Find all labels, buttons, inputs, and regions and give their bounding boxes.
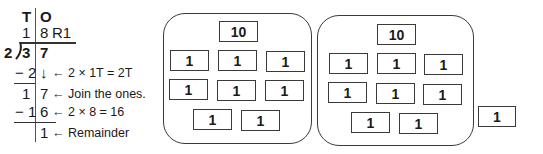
header-ones: O — [40, 9, 52, 24]
one-tile: 1 — [399, 113, 438, 134]
ten-tile: 10 — [377, 24, 416, 45]
one-tile: 1 — [265, 80, 304, 101]
one-tile: 1 — [266, 51, 305, 72]
step3-underline — [14, 122, 56, 123]
quotient-ones: 8 — [40, 25, 48, 40]
dividend-ones: 7 — [40, 45, 48, 60]
quotient-tens: 1 — [22, 25, 30, 40]
step3-tens: − 1 — [15, 104, 36, 119]
one-tile: 1 — [376, 83, 415, 104]
one-tile: 1 — [423, 84, 462, 105]
one-tile: 1 — [169, 79, 208, 100]
remainder-value: 1 — [40, 125, 48, 140]
step2-tens: 1 — [22, 86, 30, 101]
leftover-one-tile: 1 — [478, 106, 516, 127]
step1-ones-arrow: ↓ — [40, 65, 48, 80]
step2-note: ← Join the ones. — [52, 87, 146, 101]
step3-ones: 6 — [40, 104, 48, 119]
one-tile: 1 — [193, 109, 232, 130]
header-tens: T — [22, 9, 31, 24]
one-tile: 1 — [170, 50, 209, 71]
one-tile: 1 — [351, 112, 390, 133]
step1-tens: − 2 — [15, 65, 36, 80]
divisor: 2 — [4, 45, 12, 60]
remainder-note: ← Remainder — [52, 126, 129, 140]
one-tile: 1 — [218, 50, 257, 71]
step3-note: ← 2 × 8 = 16 — [52, 105, 124, 119]
step1-underline — [14, 83, 35, 84]
one-tile: 1 — [217, 80, 256, 101]
one-tile: 1 — [424, 54, 463, 75]
one-tile: 1 — [377, 53, 416, 74]
quotient-remainder: R1 — [52, 25, 71, 40]
one-tile: 1 — [241, 110, 280, 131]
one-tile: 1 — [328, 82, 367, 103]
dividend-tens: 3 — [22, 45, 30, 60]
step1-note: ← 2 × 1T = 2T — [52, 66, 132, 80]
one-tile: 1 — [329, 53, 368, 74]
ten-tile: 10 — [219, 21, 258, 42]
step2-ones: 7 — [40, 86, 48, 101]
